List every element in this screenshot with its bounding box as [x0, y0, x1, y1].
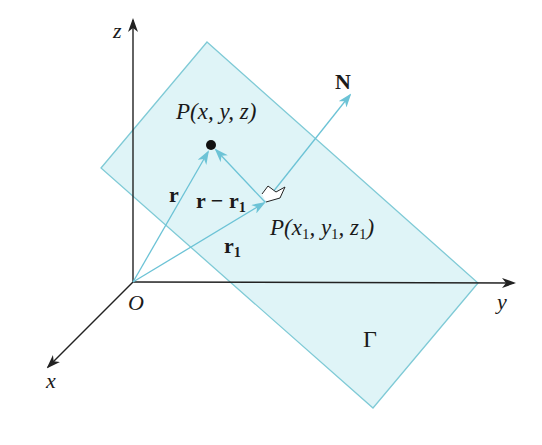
x-axis-label: x	[46, 370, 56, 392]
z-axis-label: z	[113, 20, 122, 42]
normal-vector-label: N	[335, 71, 351, 93]
r-minus-r1-text: r − r	[196, 188, 239, 213]
r1-sub: 1	[234, 244, 241, 260]
point-P-label: P(x, y, z)	[176, 100, 256, 123]
plane-label: Γ	[363, 327, 377, 351]
p1-sub-y: 1	[331, 226, 338, 242]
y-axis	[133, 282, 514, 283]
point-P	[206, 140, 216, 150]
y-axis-label: y	[497, 291, 507, 313]
p1-label-part: , z	[339, 215, 359, 240]
origin-label: O	[128, 292, 144, 314]
p1-label-part: )	[367, 215, 375, 240]
vector-r1-label: r1	[224, 235, 241, 259]
p1-label-part: P(x	[270, 215, 302, 240]
vector-r-minus-r1-label: r − r1	[196, 190, 246, 214]
x-axis	[48, 282, 133, 367]
p1-label-part: , y	[309, 215, 331, 240]
p1-sub-z: 1	[359, 226, 366, 242]
vector-r-label: r	[169, 184, 179, 206]
r-minus-r1-sub: 1	[239, 199, 246, 215]
point-P1-label: P(x1, y1, z1)	[270, 216, 374, 242]
r1-text: r	[224, 233, 234, 258]
